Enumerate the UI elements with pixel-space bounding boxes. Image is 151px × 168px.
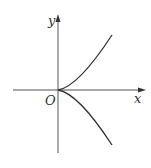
y-axis — [56, 14, 61, 153]
x-axis-label: x — [134, 92, 141, 105]
y-axis-label: y — [48, 14, 55, 27]
origin-label: O — [45, 94, 56, 107]
curve-lower-branch — [58, 90, 112, 145]
curve-upper-branch — [58, 35, 112, 90]
y-axis-arrow-icon — [56, 14, 61, 22]
function-graph — [0, 0, 151, 168]
x-axis — [13, 88, 146, 93]
